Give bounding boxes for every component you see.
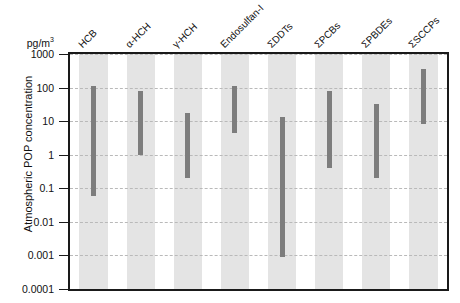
x-axis-category-label: ΣPCBs (312, 20, 342, 50)
range-bar (421, 69, 426, 124)
category-band (127, 54, 155, 289)
y-axis-tick-label: 1000 (31, 49, 54, 60)
x-axis-category-label: γ-HCH (171, 21, 200, 50)
x-axis-category-label: α-HCH (123, 20, 153, 50)
plot-area (68, 52, 449, 291)
y-axis-tick (59, 222, 68, 223)
y-axis-tick (59, 155, 68, 156)
x-axis-category-label: ΣPBDEs (359, 15, 394, 50)
y-axis-tick-label: 0.0001 (22, 284, 54, 295)
y-axis-tick (59, 188, 68, 189)
y-axis-tick-label: 0.1 (39, 183, 54, 194)
y-axis-unit-exponent: 3 (50, 36, 54, 43)
y-axis-tick-label: 10 (42, 116, 54, 127)
y-axis-tick (59, 88, 68, 89)
y-axis-unit-text: pg/m (27, 37, 50, 49)
chart-figure: Atmospheric POP concentration pg/m3 1000… (0, 0, 460, 303)
range-bar (327, 91, 332, 168)
x-axis-category-label: ΣDDTs (265, 21, 294, 50)
x-axis-category-label: ΣSCCPs (406, 15, 441, 50)
gridline (70, 88, 447, 89)
y-axis-unit-label: pg/m3 (0, 36, 68, 49)
range-bar (185, 113, 190, 179)
y-axis-tick (59, 54, 68, 55)
x-axis-category-labels: HCBα-HCHγ-HCHEndosulfan-IΣDDTsΣPCBsΣPBDE… (68, 0, 449, 50)
y-axis-tick (59, 121, 68, 122)
gridline (70, 222, 447, 223)
range-bar (280, 117, 285, 257)
y-axis-tick-label: 1 (48, 149, 54, 160)
y-axis-tick-label: 0.01 (34, 217, 54, 228)
gridline (70, 121, 447, 122)
x-axis-category-label: HCB (76, 27, 99, 50)
gridline (70, 289, 447, 290)
gridline (70, 54, 447, 55)
y-axis-tick (59, 289, 68, 290)
category-band (315, 54, 343, 289)
y-axis-tick-label: 0.001 (28, 250, 54, 261)
range-bar (232, 86, 237, 133)
gridline (70, 155, 447, 156)
range-bar (138, 91, 143, 155)
gridline (70, 255, 447, 256)
range-bar (374, 104, 379, 178)
y-axis: 10001001010.10.010.0010.0001 (0, 52, 68, 291)
y-axis-tick (59, 255, 68, 256)
gridline (70, 188, 447, 189)
range-bar (91, 86, 96, 196)
y-axis-tick-label: 100 (36, 82, 54, 93)
x-axis-category-label: Endosulfan-I (218, 3, 265, 50)
